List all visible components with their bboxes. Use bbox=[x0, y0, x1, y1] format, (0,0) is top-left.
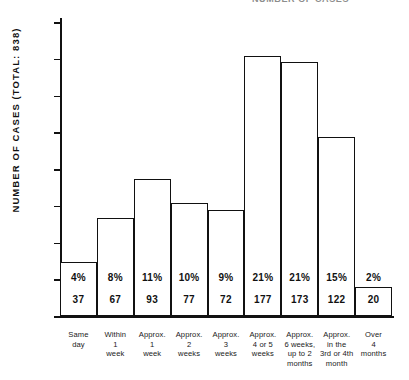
bar-percent-label-2: 8% bbox=[97, 272, 134, 283]
x-axis-line bbox=[60, 316, 394, 318]
x-category-label-line: month bbox=[314, 359, 359, 369]
y-axis-title: NUMBER OF CASES (TOTAL: 838) bbox=[10, 10, 24, 230]
x-category-label-9: Over4months bbox=[351, 330, 396, 359]
bar-value-label-1: 37 bbox=[60, 294, 97, 305]
bar-percent-label-3: 11% bbox=[134, 272, 171, 283]
bar-value-label-5: 72 bbox=[208, 294, 245, 305]
clipped-header-strip: NUMBER OF CASES bbox=[252, 0, 402, 7]
x-axis-category-labels: SamedayWithin1weekApprox.1weekApprox.2we… bbox=[60, 330, 392, 378]
x-category-label-line: Over bbox=[351, 330, 396, 340]
bar-8[interactable] bbox=[318, 137, 355, 316]
bar-1[interactable] bbox=[60, 262, 97, 316]
bar-value-label-3: 93 bbox=[134, 294, 171, 305]
bar-series: 4%378%6711%9310%779%7221%17721%17315%122… bbox=[60, 22, 392, 316]
bar-percent-label-9: 2% bbox=[355, 272, 392, 283]
bar-percent-label-8: 15% bbox=[318, 272, 355, 283]
bar-value-label-9: 20 bbox=[355, 294, 392, 305]
bar-percent-label-7: 21% bbox=[281, 272, 318, 283]
x-category-label-line: 4 bbox=[351, 340, 396, 350]
bar-value-label-6: 177 bbox=[244, 294, 281, 305]
bar-percent-label-1: 4% bbox=[60, 272, 97, 283]
y-tick-mark-0 bbox=[54, 316, 60, 318]
bar-value-label-2: 67 bbox=[97, 294, 134, 305]
clipped-header-text: NUMBER OF CASES bbox=[252, 0, 349, 4]
x-category-label-line: months bbox=[351, 349, 396, 359]
bar-percent-label-6: 21% bbox=[244, 272, 281, 283]
bar-value-label-8: 122 bbox=[318, 294, 355, 305]
bar-value-label-7: 173 bbox=[281, 294, 318, 305]
bar-percent-label-4: 10% bbox=[171, 272, 208, 283]
bar-percent-label-5: 9% bbox=[208, 272, 245, 283]
bar-value-label-4: 77 bbox=[171, 294, 208, 305]
